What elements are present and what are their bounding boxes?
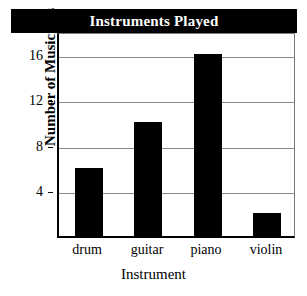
x-axis-title: Instrument: [0, 267, 307, 282]
bar-violin: [253, 213, 281, 236]
x-axis-ticks: drumguitarpianoviolin: [57, 241, 295, 263]
bar-drum: [75, 168, 103, 236]
bar-chart: Instruments Played Number of Musicians 4…: [0, 0, 307, 296]
x-tick-label: drum: [57, 243, 117, 257]
gridline: [59, 57, 294, 58]
bar-guitar: [134, 122, 162, 236]
plot-inner: [59, 34, 294, 236]
y-tick-label: 4: [36, 185, 43, 199]
x-tick-label: guitar: [117, 243, 177, 257]
x-tick-label: piano: [176, 243, 236, 257]
y-tick-mark: [48, 192, 53, 193]
plot-area: [57, 33, 295, 238]
y-tick-mark: [48, 101, 53, 102]
y-tick-label: 8: [36, 140, 43, 154]
y-tick-mark: [48, 147, 53, 148]
y-tick-mark: [48, 56, 53, 57]
x-tick-label: violin: [236, 243, 296, 257]
gridline: [59, 102, 294, 103]
bar-piano: [194, 54, 222, 236]
y-axis-ticks: 481216: [0, 33, 53, 238]
y-tick-label: 16: [29, 49, 43, 63]
gridline: [59, 148, 294, 149]
chart-title: Instruments Played: [89, 14, 218, 29]
y-tick-label: 12: [29, 94, 43, 108]
